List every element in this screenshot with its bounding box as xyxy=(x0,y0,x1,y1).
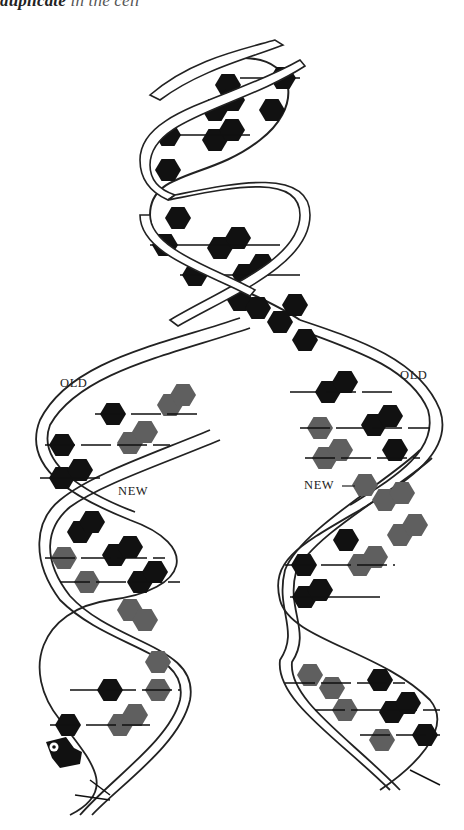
left-daughter-helix xyxy=(36,318,250,815)
parent-helix xyxy=(140,40,310,326)
label-new-right: NEW xyxy=(304,478,334,493)
dna-replication-diagram xyxy=(0,0,464,830)
label-new-left: NEW xyxy=(118,484,148,499)
label-old-left: OLD xyxy=(60,376,88,391)
label-old-right: OLD xyxy=(400,368,428,383)
